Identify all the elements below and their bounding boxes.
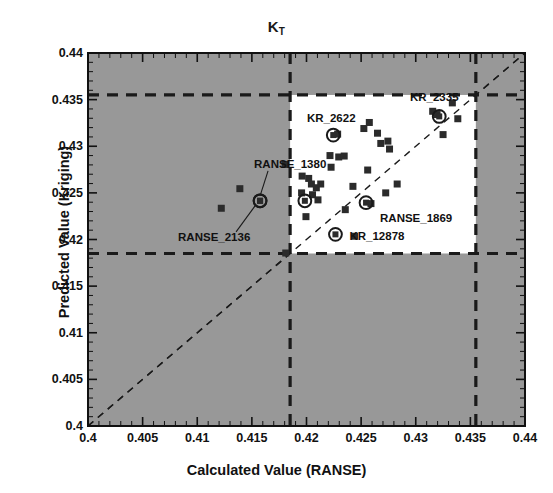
data-point-marker xyxy=(299,173,306,180)
data-point-marker xyxy=(326,152,333,159)
x-axis-title: Calculated Value (RANSE) xyxy=(0,462,553,478)
data-point-marker xyxy=(218,205,225,212)
data-point-marker xyxy=(328,164,335,171)
data-point-marker xyxy=(317,181,324,188)
data-point-marker xyxy=(360,125,367,132)
y-tick-label: 0.4 xyxy=(66,419,83,433)
x-tick-label: 0.405 xyxy=(127,431,158,445)
data-point-marker xyxy=(384,138,391,145)
data-point-marker xyxy=(314,196,321,203)
data-point-marker xyxy=(377,140,384,147)
point-label-ranse_1380: RANSE_1380 xyxy=(254,158,326,170)
x-tick-label: 0.425 xyxy=(345,431,376,445)
data-point-marker xyxy=(302,213,309,220)
x-tick-label: 0.41 xyxy=(185,431,209,445)
data-point-marker xyxy=(364,167,371,174)
x-tick-label: 0.42 xyxy=(294,431,318,445)
point-label-ranse_1869: RANSE_1869 xyxy=(380,212,452,224)
data-point-marker xyxy=(394,181,401,188)
x-tick-label: 0.44 xyxy=(513,431,537,445)
data-point-marker xyxy=(349,183,356,190)
point-label-kr_12878: KR_12878 xyxy=(349,230,404,242)
x-tick-label: 0.435 xyxy=(455,431,486,445)
data-point-marker xyxy=(366,119,373,126)
data-point-marker xyxy=(374,130,381,137)
point-label-kr_2335: KR_2335 xyxy=(410,91,459,103)
y-tick-label: 0.44 xyxy=(59,46,83,60)
data-point-marker xyxy=(236,185,243,192)
x-tick-label: 0.415 xyxy=(236,431,267,445)
y-axis-title: Predicted Value (Kriging) xyxy=(56,82,72,382)
data-point-marker xyxy=(454,115,461,122)
data-point-marker xyxy=(341,153,348,160)
data-point-marker xyxy=(440,131,447,138)
data-point-marker xyxy=(282,250,289,257)
chart-figure: KT 0.40.4050.410.4150.420.4250.430.4350.… xyxy=(0,0,553,493)
point-label-kr_2622: KR_2622 xyxy=(307,112,356,124)
data-point-marker xyxy=(382,189,389,196)
data-point-marker xyxy=(342,206,349,213)
data-point-marker xyxy=(386,146,393,153)
point-label-ranse_2136: RANSE_2136 xyxy=(178,231,250,243)
x-tick-label: 0.43 xyxy=(404,431,428,445)
x-tick-label: 0.4 xyxy=(79,431,96,445)
